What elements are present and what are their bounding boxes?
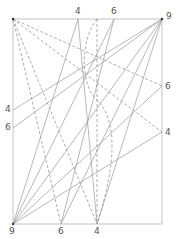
label-left-4: 4 [5,105,11,114]
crease-line-TL-B4 [13,19,97,224]
point-BL [12,223,14,225]
label-bottom-6: 6 [58,227,64,236]
label-bottom-4: 4 [94,227,100,236]
crease-line-TL-R6 [13,19,162,86]
label-top-6: 6 [111,7,117,16]
crease-line-BL-T6 [13,19,114,224]
label-left-6: 6 [5,123,11,132]
label-right-6: 6 [165,82,171,91]
label-top-right-9: 9 [166,12,172,21]
crease-line-BL-T4 [13,19,78,224]
crease-line-TR-B4 [97,19,162,224]
point-TL [12,18,14,20]
label-bottom-left-9: 9 [9,227,15,236]
label-top-4: 4 [75,7,81,16]
crease-line-TL-R4 [13,19,162,132]
crease-line-B6-T6 [61,19,114,224]
point-TR [161,18,163,20]
crease-lines [13,19,162,224]
crease-line-BL-R6 [13,86,162,224]
crease-pattern-diagram [0,0,182,239]
s-curve [84,19,112,224]
label-right-4: 4 [165,128,171,137]
